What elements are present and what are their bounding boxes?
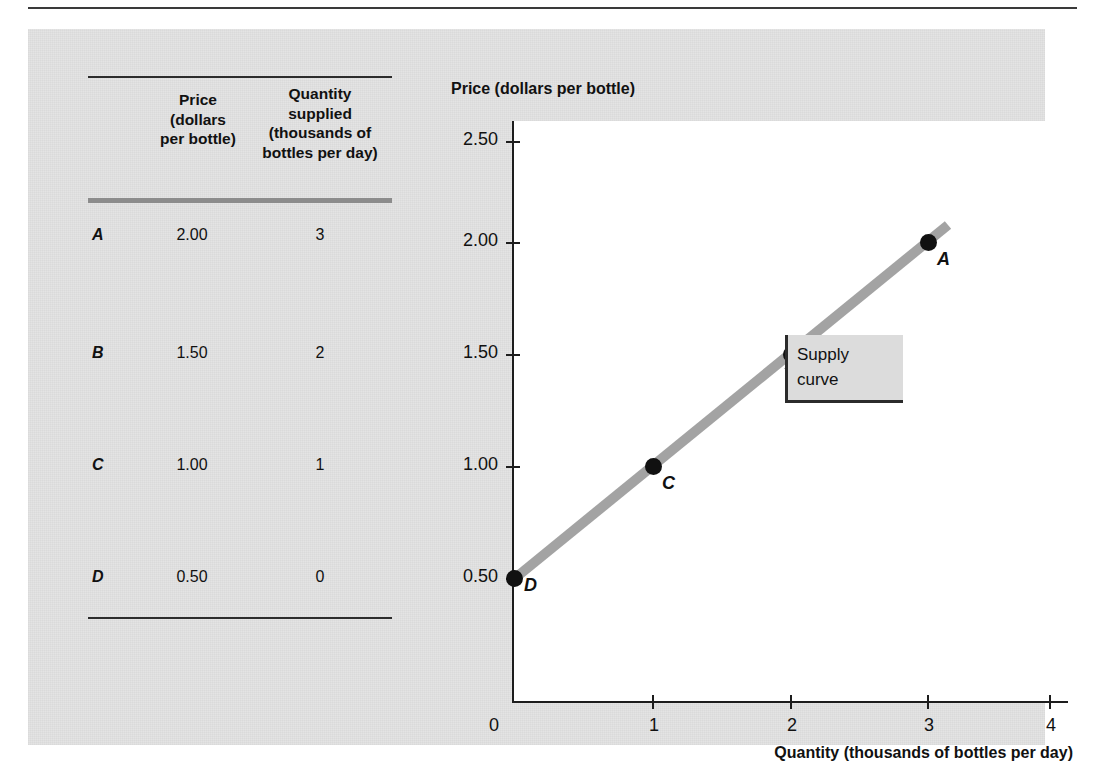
supply-curve-callout-line2: curve bbox=[797, 367, 897, 392]
table-cell-quantity: 2 bbox=[256, 344, 384, 362]
y-tick-mark bbox=[506, 466, 520, 468]
x-tick-mark bbox=[652, 695, 654, 709]
data-point-a-label: A bbox=[937, 249, 950, 270]
y-tick-label: 0.50 bbox=[440, 566, 498, 587]
table-row-label: C bbox=[92, 456, 118, 474]
y-tick-label: 2.50 bbox=[440, 129, 498, 150]
y-tick-label: 2.00 bbox=[440, 230, 498, 251]
x-tick-mark bbox=[927, 695, 929, 709]
data-point-d bbox=[506, 570, 523, 587]
table-cell-quantity: 1 bbox=[256, 456, 384, 474]
table-row-label: D bbox=[92, 568, 118, 586]
x-tick-label: 2 bbox=[772, 715, 812, 736]
table-cell-price: 0.50 bbox=[140, 568, 244, 586]
plot-canvas bbox=[513, 121, 1068, 701]
x-tick-mark bbox=[1049, 695, 1051, 709]
supply-curve-chart: Price (dollars per bottle) 2.50 2.00 1.5… bbox=[448, 76, 1073, 766]
table-header-price-line1: Price bbox=[144, 90, 252, 110]
table-cell-price: 1.50 bbox=[140, 344, 244, 362]
table-row: A 2.00 3 bbox=[88, 226, 392, 256]
table-cell-quantity: 3 bbox=[256, 226, 384, 244]
table-header-quantity-line1: Quantity bbox=[248, 84, 392, 104]
data-point-d-label: D bbox=[524, 575, 537, 596]
table-row-label: A bbox=[92, 226, 118, 244]
y-axis-title: Price (dollars per bottle) bbox=[451, 80, 635, 98]
x-tick-label: 0 bbox=[474, 715, 514, 736]
table-header-quantity-line4: bottles per day) bbox=[248, 143, 392, 163]
figure-panel: Price (dollars per bottle) Quantity supp… bbox=[28, 29, 1045, 745]
x-tick-mark bbox=[790, 695, 792, 709]
y-tick-label: 1.00 bbox=[440, 454, 498, 475]
table-row: D 0.50 0 bbox=[88, 568, 392, 598]
data-point-c bbox=[645, 458, 662, 475]
table-header-rule bbox=[88, 198, 392, 203]
table-row-label: B bbox=[92, 344, 118, 362]
y-tick-mark bbox=[506, 242, 520, 244]
top-divider-rule bbox=[28, 7, 1077, 9]
supply-curve-callout-text: Supply curve bbox=[797, 342, 897, 392]
data-point-c-label: C bbox=[662, 473, 675, 494]
table-cell-price: 2.00 bbox=[140, 226, 244, 244]
table-row: C 1.00 1 bbox=[88, 456, 392, 486]
supply-curve-callout: Supply curve bbox=[785, 335, 903, 403]
table-header-price-line3: per bottle) bbox=[144, 129, 252, 149]
table-header-price-line2: (dollars bbox=[144, 110, 252, 130]
table-header-price: Price (dollars per bottle) bbox=[144, 90, 252, 149]
table-cell-quantity: 0 bbox=[256, 568, 384, 586]
y-tick-mark bbox=[506, 141, 520, 143]
x-tick-label: 1 bbox=[634, 715, 674, 736]
data-point-a bbox=[920, 234, 937, 251]
y-axis-line bbox=[512, 121, 514, 703]
x-tick-label: 4 bbox=[1031, 715, 1071, 736]
table-row: B 1.50 2 bbox=[88, 344, 392, 374]
table-top-rule bbox=[88, 76, 392, 78]
x-tick-label: 3 bbox=[909, 715, 949, 736]
supply-schedule-table: Price (dollars per bottle) Quantity supp… bbox=[88, 76, 392, 621]
supply-curve-callout-line1: Supply bbox=[797, 342, 897, 367]
table-header-quantity-line2: supplied bbox=[248, 104, 392, 124]
table-header-quantity: Quantity supplied (thousands of bottles … bbox=[248, 84, 392, 162]
y-tick-label: 1.50 bbox=[440, 342, 498, 363]
y-tick-mark bbox=[506, 354, 520, 356]
x-axis-title: Quantity (thousands of bottles per day) bbox=[774, 744, 1073, 762]
table-header-quantity-line3: (thousands of bbox=[248, 123, 392, 143]
table-cell-price: 1.00 bbox=[140, 456, 244, 474]
table-bottom-rule bbox=[88, 617, 392, 619]
